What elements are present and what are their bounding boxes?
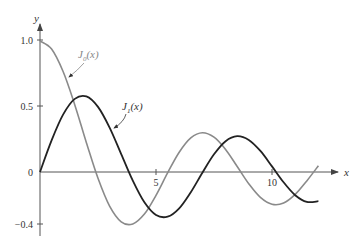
y-tick-label: 0: [28, 167, 33, 178]
svg-text:J0(x): J0(x): [78, 48, 99, 63]
svg-text:J1(x): J1(x): [122, 100, 143, 115]
series-j0-line: [40, 41, 318, 225]
y-ticks: 1.0 0.5 0 −0.4: [15, 35, 43, 230]
j0-annotation: J0(x): [69, 48, 99, 77]
bessel-chart: y x 1.0 0.5 0 −0.4 5 10 J0(x) J1(x): [0, 0, 360, 252]
y-tick-label: 0.5: [21, 101, 34, 112]
j1-annotation: J1(x): [114, 100, 143, 128]
x-axis-label: x: [343, 166, 349, 178]
x-tick-label: 10: [267, 177, 277, 188]
series-j1-line: [40, 96, 318, 217]
y-axis-label: y: [33, 12, 39, 24]
x-tick-label: 5: [154, 177, 159, 188]
y-tick-label: −0.4: [15, 219, 33, 230]
y-tick-label: 1.0: [21, 35, 34, 46]
